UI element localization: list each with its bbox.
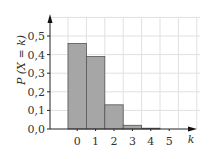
bar-k-1 xyxy=(86,56,104,129)
y-tick-label: 0,1 xyxy=(28,104,46,117)
bar-k-3 xyxy=(123,125,141,129)
y-tick-label: 0,0 xyxy=(28,123,46,136)
x-tick-label: 2 xyxy=(111,135,118,148)
y-tick-label: 0,2 xyxy=(28,86,46,99)
y-tick-label: 0,5 xyxy=(28,30,46,43)
probability-bar-chart: 0,00,10,20,30,40,5 012345 P (X = k) k xyxy=(0,0,212,159)
x-tick-label: 0 xyxy=(74,135,81,148)
y-tick-label: 0,4 xyxy=(28,49,46,62)
y-tick-labels: 0,00,10,20,30,40,5 xyxy=(28,30,51,136)
bar-k-0 xyxy=(68,43,86,129)
x-tick-label: 4 xyxy=(147,135,154,148)
y-tick-label: 0,3 xyxy=(28,67,46,80)
x-tick-labels: 012345 xyxy=(74,129,173,148)
x-axis-arrow-icon xyxy=(188,127,197,132)
bars xyxy=(68,43,160,129)
y-axis-arrow-icon xyxy=(48,14,53,23)
x-tick-label: 3 xyxy=(129,135,136,148)
x-tick-label: 5 xyxy=(166,135,173,148)
x-axis-label: k xyxy=(188,133,195,146)
bar-k-2 xyxy=(105,105,123,129)
y-axis-label: P (X = k) xyxy=(15,35,28,86)
x-tick-label: 1 xyxy=(92,135,99,148)
